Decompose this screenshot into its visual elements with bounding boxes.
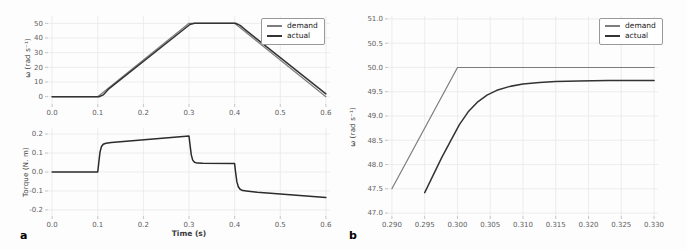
- x-tick-label: 0.305: [480, 221, 500, 229]
- demand-line-swatch: [605, 25, 620, 27]
- x-tick-label: 0.0: [47, 109, 58, 117]
- panel-a-bottom-ylabel: Torque (N. m): [22, 147, 30, 197]
- x-tick-label: 0.3: [183, 221, 194, 229]
- y-tick-label: -0.1: [29, 187, 43, 195]
- x-tick-label: 0.0: [47, 221, 58, 229]
- y-tick-label: 20: [34, 64, 43, 72]
- legend-label-demand: demand: [287, 22, 318, 30]
- y-tick-label: 10: [34, 78, 43, 86]
- chart-omega_zoom: 0.2900.2950.3000.3050.3100.3150.3200.325…: [367, 15, 664, 229]
- y-tick-label: 40: [34, 34, 43, 42]
- panel-a-letter: a: [20, 230, 27, 241]
- x-tick-label: 0.1: [92, 109, 103, 117]
- x-tick-label: 0.5: [275, 221, 286, 229]
- panel-b-legend: demand actual: [599, 18, 663, 45]
- legend-entry-demand: demand: [605, 22, 656, 30]
- y-tick-label: 0.1: [32, 149, 43, 157]
- panel-a-xlabel: Time (s): [172, 229, 207, 238]
- x-tick-label: 0.325: [611, 221, 631, 229]
- legend-entry-actual: actual: [267, 32, 318, 40]
- y-tick-label: 50: [34, 20, 43, 28]
- y-tick-label: -0.2: [29, 206, 43, 214]
- y-tick-label: 49.5: [367, 88, 383, 96]
- x-tick-label: 0.290: [382, 221, 402, 229]
- y-tick-label: 47.0: [367, 209, 383, 217]
- x-tick-label: 0.4: [229, 109, 241, 117]
- x-tick-label: 0.310: [513, 221, 533, 229]
- x-tick-label: 0.295: [415, 221, 435, 229]
- figure-root: 0.00.10.20.30.40.50.6010203040500.00.10.…: [0, 0, 687, 249]
- legend-entry-demand: demand: [267, 22, 318, 30]
- y-tick-label: 0.0: [32, 168, 43, 176]
- legend-label-demand: demand: [625, 22, 656, 30]
- omega_zoom-series-actual: [425, 81, 654, 193]
- x-tick-label: 0.6: [320, 221, 332, 229]
- y-tick-label: 0: [39, 93, 43, 101]
- actual-line-swatch: [605, 35, 620, 37]
- x-tick-label: 0.300: [447, 221, 467, 229]
- panel-b-letter: b: [349, 230, 357, 241]
- y-tick-label: 0.2: [32, 130, 43, 138]
- y-tick-label: 48.0: [367, 161, 383, 169]
- chart-torque_full: 0.00.10.20.30.40.50.6-0.2-0.10.00.10.2: [29, 128, 332, 229]
- y-tick-label: 47.5: [367, 185, 383, 193]
- x-tick-label: 0.315: [546, 221, 566, 229]
- actual-line-swatch: [267, 35, 282, 37]
- demand-line-swatch: [267, 25, 282, 27]
- x-tick-label: 0.3: [183, 109, 194, 117]
- y-tick-label: 50.5: [367, 40, 383, 48]
- x-tick-label: 0.6: [320, 109, 332, 117]
- y-tick-label: 30: [34, 49, 43, 57]
- x-tick-label: 0.2: [138, 221, 149, 229]
- y-tick-label: 50.0: [367, 64, 383, 72]
- x-tick-label: 0.2: [138, 109, 149, 117]
- panel-a-legend: demand actual: [261, 18, 325, 45]
- x-tick-label: 0.1: [92, 221, 103, 229]
- panel-a-top-ylabel: ω (rad s⁻¹): [24, 38, 32, 78]
- x-tick-label: 0.4: [229, 221, 241, 229]
- y-tick-label: 49.0: [367, 112, 383, 120]
- y-tick-label: 48.5: [367, 137, 383, 145]
- legend-entry-actual: actual: [605, 32, 656, 40]
- x-tick-label: 0.5: [275, 109, 286, 117]
- legend-label-actual: actual: [287, 32, 310, 40]
- x-tick-label: 0.330: [644, 221, 664, 229]
- legend-label-actual: actual: [625, 32, 648, 40]
- x-tick-label: 0.320: [579, 221, 599, 229]
- charts-svg: 0.00.10.20.30.40.50.6010203040500.00.10.…: [0, 0, 687, 249]
- y-tick-label: 51.0: [367, 15, 383, 23]
- panel-b-ylabel: ω (rad s⁻¹): [349, 107, 357, 147]
